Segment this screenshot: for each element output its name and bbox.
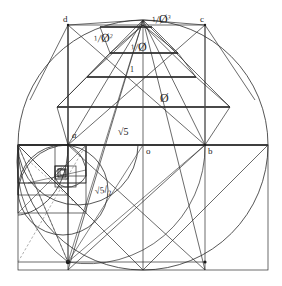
label-point-c: c	[200, 15, 204, 24]
ray-c-out-right	[205, 25, 255, 100]
golden-spiral-sweep	[18, 145, 68, 215]
fan-ray-5	[68, 20, 143, 262]
label-point-b: b	[208, 147, 213, 156]
label-sqrt-five-over-two: √5/2	[94, 183, 112, 199]
ladder-right-2	[143, 20, 230, 107]
label-point-a: a	[72, 131, 77, 140]
ray-d-to-top	[68, 20, 143, 25]
chord-tie-left-one	[57, 77, 87, 107]
chord-tie-left-two	[87, 53, 110, 77]
one-over-phi-squared-exponent: 2	[109, 33, 112, 39]
chord-tie-right-phi	[205, 107, 230, 145]
node-d	[67, 24, 69, 26]
chord-tie-right-three	[152, 27, 178, 53]
label-phi: Ø	[160, 92, 169, 104]
ray-d-out-left	[30, 25, 68, 100]
ladder-right-1	[143, 20, 205, 145]
label-one-over-phi-cubed: 1/Ø3	[152, 12, 171, 25]
label-one-over-phi-squared: 1/Ø2	[94, 32, 113, 45]
label-one-over-phi: 1/Ø	[131, 41, 147, 54]
golden-ratio-figure: d c a o b 1/Ø3 1/Ø2 1/Ø 1 Ø √5 √5/2	[0, 0, 282, 286]
one-over-phi-symbol: Ø	[138, 40, 147, 54]
fan-ray-1	[18, 145, 68, 262]
node-bottom-right-vertex	[203, 260, 206, 263]
label-sqrt-five: √5	[118, 127, 129, 137]
chord-tie-right-two	[178, 53, 196, 77]
chord-tie-right-one	[196, 77, 230, 107]
lower-diag-long-right	[143, 145, 268, 270]
fan-ray-4	[68, 145, 205, 262]
label-one: 1	[130, 66, 134, 74]
chord-tie-left-phi	[57, 107, 68, 145]
label-point-d: d	[63, 15, 68, 24]
label-point-o: o	[146, 147, 151, 156]
ladder-right-4	[143, 25, 178, 53]
node-c	[204, 24, 206, 26]
one-over-phi-cubed-exponent: 3	[167, 14, 170, 20]
